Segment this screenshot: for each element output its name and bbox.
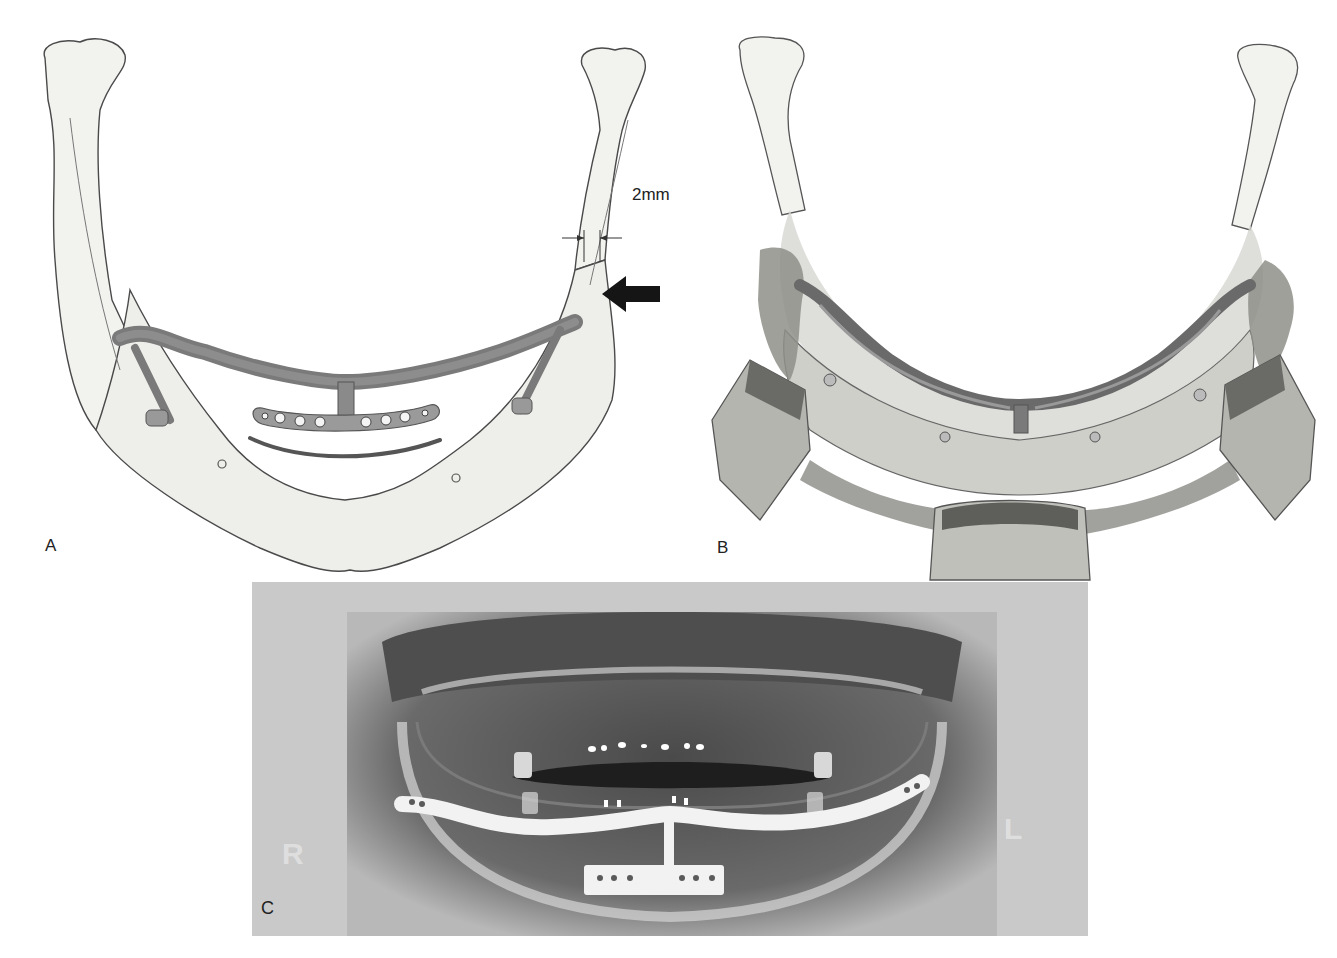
panel-label-b: B — [717, 538, 728, 558]
panel-label-c: C — [261, 898, 274, 919]
figure-panel-b: B — [690, 0, 1337, 585]
surgical-exposure-illustration — [690, 0, 1337, 585]
panel-label-a: A — [45, 536, 56, 556]
arrow-left-icon — [602, 276, 662, 312]
panoramic-xray-image — [252, 582, 1088, 936]
xray-marker-right: R — [282, 837, 304, 871]
measurement-label: 2mm — [632, 185, 670, 205]
figure-panel-a: 2mm A — [0, 0, 690, 585]
figure-panel-c-radiograph: R L C — [252, 582, 1088, 936]
mandible-plate-illustration — [0, 0, 690, 585]
xray-marker-left: L — [1004, 812, 1022, 846]
